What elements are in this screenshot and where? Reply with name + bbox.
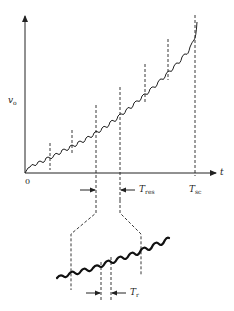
- funnel-left: [71, 200, 96, 290]
- staircase-ramp-diagram: [0, 0, 234, 311]
- y-axis-label: vo: [8, 96, 17, 106]
- origin-label: 0: [25, 178, 30, 186]
- funnel-right: [120, 200, 141, 275]
- t-res-label-sub: res: [145, 188, 155, 195]
- x-axis-label: t: [220, 168, 224, 177]
- t-sc-label-sub: sc: [195, 188, 201, 195]
- t-r-label: Tr: [130, 288, 139, 298]
- t-r-label-sub: r: [136, 291, 139, 298]
- t-sc-label: Tsc: [189, 185, 201, 195]
- ramp-waveform: [25, 22, 197, 173]
- y-axis-label-sub: o: [13, 99, 17, 106]
- magnified-waveform: [57, 238, 169, 278]
- t-res-label: Tres: [139, 185, 155, 195]
